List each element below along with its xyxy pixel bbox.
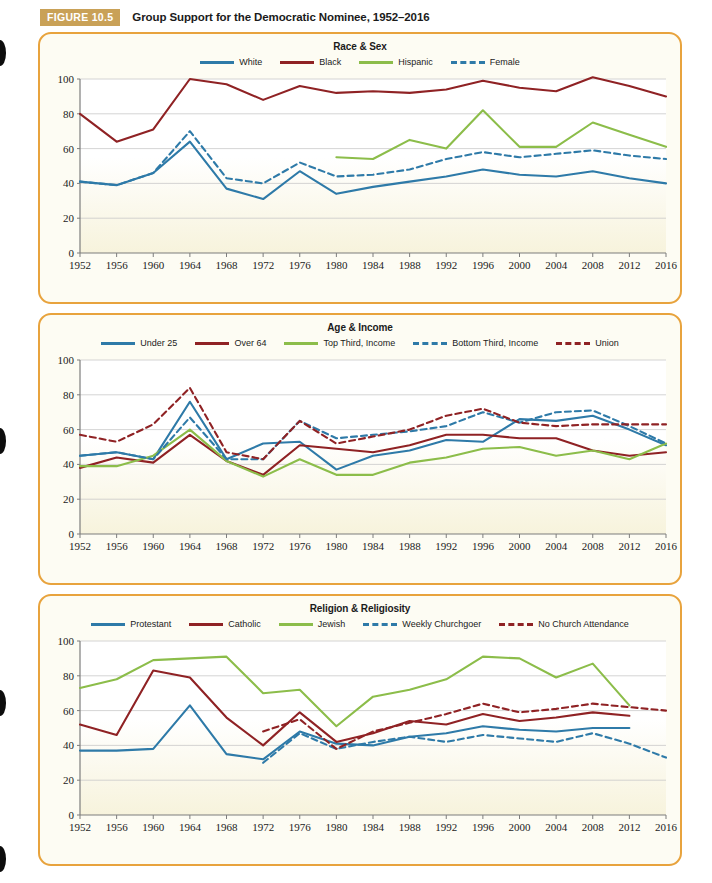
- chart-panel-religion-religiosity: Religion & Religiosity ProtestantCatholi…: [38, 594, 682, 866]
- chart-title: Age & Income: [40, 322, 680, 333]
- x-axis-tick-label: 1960: [142, 821, 165, 833]
- y-axis-tick-label: 0: [69, 528, 75, 540]
- legend-swatch-dashed-line-icon: [413, 342, 447, 345]
- legend-label: Bottom Third, Income: [452, 338, 538, 348]
- legend-item[interactable]: Union: [556, 338, 619, 348]
- y-axis-tick-label: 40: [63, 458, 75, 470]
- figure-number-badge: FIGURE 10.5: [40, 9, 120, 26]
- legend-item[interactable]: Over 64: [195, 338, 266, 348]
- y-axis-tick-label: 20: [63, 212, 75, 224]
- legend-label: Hispanic: [398, 57, 433, 67]
- x-axis-tick-label: 1968: [216, 259, 239, 271]
- x-axis-tick-label: 1972: [252, 540, 274, 552]
- legend-swatch-solid-line-icon: [284, 342, 318, 345]
- legend-swatch-solid-line-icon: [200, 61, 234, 64]
- page-bleed-tab-2: [0, 428, 6, 454]
- x-axis-tick-label: 1968: [216, 821, 239, 833]
- x-axis-tick-label: 1952: [69, 540, 91, 552]
- legend-item[interactable]: Hispanic: [359, 57, 433, 67]
- legend-item[interactable]: Top Third, Income: [284, 338, 395, 348]
- y-axis-tick-label: 100: [58, 73, 75, 85]
- plot-background: [80, 360, 666, 534]
- plot-background: [80, 641, 666, 815]
- x-axis-tick-label: 1988: [399, 259, 422, 271]
- y-axis-tick-label: 20: [63, 774, 75, 786]
- x-axis-tick-label: 1964: [179, 540, 202, 552]
- plot-background: [80, 79, 666, 253]
- legend-item[interactable]: Weekly Churchgoer: [363, 619, 481, 629]
- legend-item[interactable]: Protestant: [91, 619, 171, 629]
- x-axis-tick-label: 2008: [582, 821, 605, 833]
- legend-label: Black: [319, 57, 341, 67]
- legend-item[interactable]: Jewish: [279, 619, 346, 629]
- x-axis-tick-label: 2016: [655, 821, 678, 833]
- legend-item[interactable]: No Church Attendance: [499, 619, 629, 629]
- x-axis-tick-label: 1952: [69, 259, 91, 271]
- x-axis-tick-label: 1972: [252, 259, 274, 271]
- chart-legend: Under 25Over 64Top Third, IncomeBottom T…: [40, 338, 680, 348]
- x-axis-tick-label: 2000: [509, 259, 532, 271]
- legend-item[interactable]: Black: [280, 57, 341, 67]
- x-axis-tick-label: 2004: [545, 540, 568, 552]
- legend-item[interactable]: Catholic: [189, 619, 261, 629]
- legend-item[interactable]: Female: [451, 57, 520, 67]
- y-axis-tick-label: 40: [63, 739, 75, 751]
- chart-panel-race-sex: Race & Sex WhiteBlackHispanicFemale 0204…: [38, 32, 682, 304]
- x-axis-tick-label: 1980: [325, 259, 348, 271]
- legend-item[interactable]: Bottom Third, Income: [413, 338, 538, 348]
- x-axis-tick-label: 1956: [106, 821, 129, 833]
- x-axis-tick-label: 1980: [325, 540, 348, 552]
- legend-item[interactable]: Under 25: [101, 338, 177, 348]
- legend-swatch-dashed-line-icon: [363, 623, 397, 626]
- y-axis-tick-label: 80: [63, 670, 75, 682]
- y-axis-tick-label: 80: [63, 389, 75, 401]
- page-bleed-tab-3: [0, 690, 6, 716]
- y-axis-tick-label: 100: [58, 635, 75, 647]
- line-chart-svg: 0204060801001952195619601964196819721976…: [40, 71, 680, 283]
- legend-swatch-solid-line-icon: [279, 623, 313, 626]
- x-axis-tick-label: 1988: [399, 540, 422, 552]
- legend-swatch-solid-line-icon: [280, 61, 314, 64]
- legend-label: Union: [595, 338, 619, 348]
- chart-legend: WhiteBlackHispanicFemale: [40, 57, 680, 67]
- chart-title: Religion & Religiosity: [40, 603, 680, 614]
- legend-swatch-solid-line-icon: [359, 61, 393, 64]
- x-axis-tick-label: 1956: [106, 259, 129, 271]
- x-axis-tick-label: 2016: [655, 259, 678, 271]
- chart-title: Race & Sex: [40, 41, 680, 52]
- y-axis-tick-label: 20: [63, 493, 75, 505]
- x-axis-tick-label: 1956: [106, 540, 129, 552]
- x-axis-tick-label: 2012: [618, 259, 640, 271]
- y-axis-tick-label: 60: [63, 143, 75, 155]
- x-axis-tick-label: 1976: [289, 259, 312, 271]
- legend-item[interactable]: White: [200, 57, 262, 67]
- x-axis-tick-label: 1992: [435, 540, 457, 552]
- x-axis-tick-label: 1984: [362, 821, 385, 833]
- x-axis-tick-label: 1952: [69, 821, 91, 833]
- figure-title: Group Support for the Democratic Nominee…: [132, 11, 429, 23]
- legend-swatch-dashed-line-icon: [499, 623, 533, 626]
- figure-header: FIGURE 10.5 Group Support for the Democr…: [40, 9, 430, 26]
- legend-label: Protestant: [130, 619, 171, 629]
- x-axis-tick-label: 2000: [509, 821, 532, 833]
- x-axis-tick-label: 2012: [618, 540, 640, 552]
- x-axis-tick-label: 1984: [362, 259, 385, 271]
- x-axis-tick-label: 2008: [582, 540, 605, 552]
- legend-swatch-solid-line-icon: [195, 342, 229, 345]
- line-chart-svg: 0204060801001952195619601964196819721976…: [40, 352, 680, 564]
- page-bleed-tab-4: [0, 846, 6, 872]
- x-axis-tick-label: 1960: [142, 259, 165, 271]
- x-axis-tick-label: 1988: [399, 821, 422, 833]
- legend-label: Female: [490, 57, 520, 67]
- y-axis-tick-label: 60: [63, 705, 75, 717]
- x-axis-tick-label: 2004: [545, 259, 568, 271]
- x-axis-tick-label: 2016: [655, 540, 678, 552]
- y-axis-tick-label: 0: [69, 247, 75, 259]
- x-axis-tick-label: 1964: [179, 821, 202, 833]
- legend-swatch-solid-line-icon: [189, 623, 223, 626]
- x-axis-tick-label: 1996: [472, 259, 495, 271]
- legend-swatch-solid-line-icon: [101, 342, 135, 345]
- x-axis-tick-label: 1968: [216, 540, 239, 552]
- x-axis-tick-label: 1976: [289, 821, 312, 833]
- legend-swatch-solid-line-icon: [91, 623, 125, 626]
